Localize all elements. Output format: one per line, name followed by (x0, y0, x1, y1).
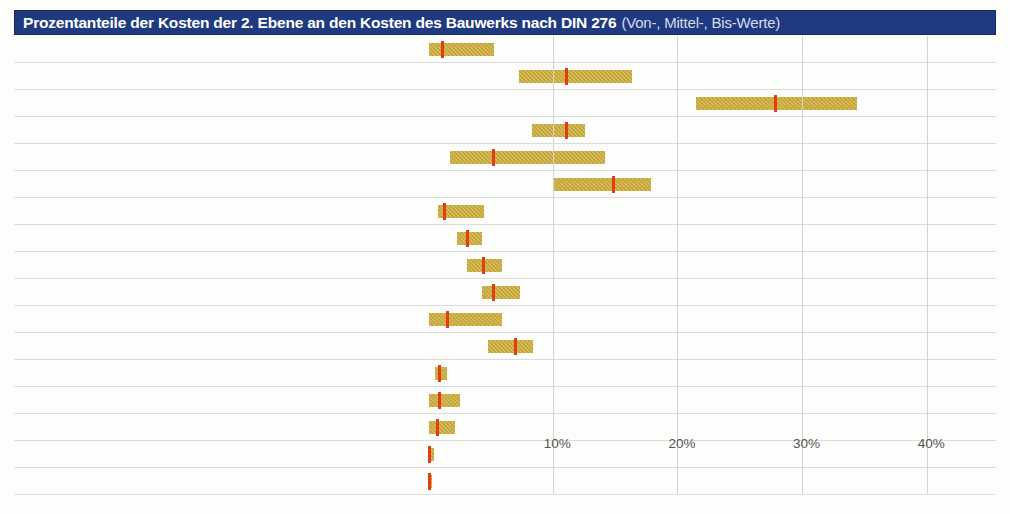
row-plot (414, 333, 996, 359)
table-row (14, 63, 996, 90)
x-tick-label: 40% (918, 436, 945, 451)
x-tick-label: 30% (793, 436, 820, 451)
bottom-divider (14, 494, 996, 495)
row-plot (414, 360, 996, 386)
row-plot (414, 63, 996, 89)
table-row (14, 360, 996, 387)
table-row (14, 333, 996, 360)
row-plot (414, 414, 996, 440)
table-row (14, 279, 996, 306)
x-tick-label: 20% (668, 436, 695, 451)
table-row (14, 36, 996, 63)
mean-marker (438, 365, 441, 382)
mean-marker (565, 122, 568, 139)
table-row (14, 387, 996, 414)
table-row (14, 198, 996, 225)
mean-marker (466, 230, 469, 247)
page-subtitle: (Von-, Mittel-, Bis-Werte) (621, 14, 780, 31)
row-plot (414, 171, 996, 197)
range-bar (554, 178, 651, 191)
range-bar (429, 43, 494, 56)
mean-marker (438, 392, 441, 409)
row-plot (414, 252, 996, 278)
mean-marker (446, 311, 449, 328)
x-tick-label: 10% (544, 436, 571, 451)
table-row (14, 171, 996, 198)
chart-page: Prozentanteile der Kosten der 2. Ebene a… (0, 0, 1010, 514)
range-bar (429, 394, 460, 407)
row-plot (414, 306, 996, 332)
row-plot (414, 225, 996, 251)
mean-marker (443, 203, 446, 220)
x-axis: 10%20%30%40% (400, 458, 982, 480)
table-row (14, 117, 996, 144)
table-row (14, 414, 996, 441)
range-bar (488, 340, 533, 353)
mean-marker (514, 338, 517, 355)
row-plot (414, 90, 996, 116)
row-plot (414, 144, 996, 170)
table-row (14, 225, 996, 252)
row-plot (414, 279, 996, 305)
table-row (14, 306, 996, 333)
mean-marker (482, 257, 485, 274)
range-bar (429, 313, 501, 326)
range-bar (482, 286, 521, 299)
range-bar (519, 70, 632, 83)
table-row (14, 252, 996, 279)
data-table (14, 36, 996, 494)
row-plot (414, 36, 996, 62)
mean-marker (492, 284, 495, 301)
range-bar (532, 124, 586, 137)
mean-marker (492, 149, 495, 166)
table-row (14, 144, 996, 171)
row-plot (414, 387, 996, 413)
mean-marker (774, 95, 777, 112)
mean-marker (436, 419, 439, 436)
range-bar (450, 151, 605, 164)
mean-marker (612, 176, 615, 193)
mean-marker (441, 41, 444, 58)
chart-title-bar: Prozentanteile der Kosten der 2. Ebene a… (14, 10, 996, 35)
table-row (14, 90, 996, 117)
range-bar (457, 232, 482, 245)
range-bar (429, 421, 455, 434)
row-plot (414, 198, 996, 224)
row-plot (414, 117, 996, 143)
mean-marker (565, 68, 568, 85)
page-title: Prozentanteile der Kosten der 2. Ebene a… (23, 14, 616, 32)
